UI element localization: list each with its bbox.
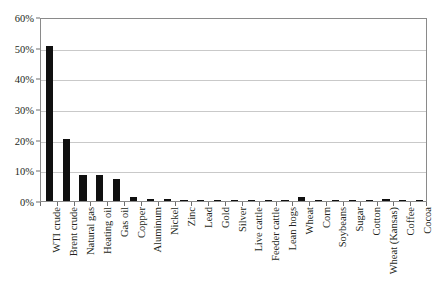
x-tick-label: Corn bbox=[318, 207, 329, 228]
x-tick-label: Lean hogs bbox=[284, 207, 295, 250]
x-tick-mark bbox=[175, 202, 176, 206]
y-tick-label: 60% bbox=[15, 13, 34, 24]
x-tick-label: Feeder cattle bbox=[267, 207, 278, 261]
x-tick-mark bbox=[124, 202, 125, 206]
bar bbox=[63, 139, 70, 201]
x-tick-mark bbox=[242, 202, 243, 206]
bar bbox=[332, 200, 339, 201]
x-tick-label: Gold bbox=[217, 207, 228, 228]
x-tick-label: Brent crude bbox=[65, 207, 76, 256]
bar bbox=[46, 46, 53, 201]
x-tick-label: Nickel bbox=[166, 207, 177, 235]
y-tick-label: 0% bbox=[20, 197, 34, 208]
x-tick-mark bbox=[107, 202, 108, 206]
x-tick-label-text: Soybeans bbox=[338, 207, 349, 247]
x-tick-label-text: Cotton bbox=[372, 207, 383, 236]
x-tick-label-text: Silver bbox=[237, 207, 248, 232]
bar bbox=[248, 200, 255, 201]
y-tick-label: 10% bbox=[15, 166, 34, 177]
bar bbox=[197, 200, 204, 201]
x-tick-label-text: Brent crude bbox=[69, 207, 80, 256]
x-tick-label-text: Zinc bbox=[187, 207, 198, 226]
bar bbox=[130, 197, 137, 201]
x-tick-label-text: Lead bbox=[203, 207, 214, 228]
bar bbox=[416, 200, 423, 201]
x-tick-label: Sugar bbox=[351, 207, 362, 232]
bar bbox=[382, 199, 389, 201]
x-tick-label: Gas oil bbox=[116, 207, 127, 237]
x-tick-mark bbox=[208, 202, 209, 206]
x-tick-label-text: Copper bbox=[136, 207, 147, 238]
x-tick-label: Wheat bbox=[301, 207, 312, 234]
bar bbox=[180, 200, 187, 201]
plot-area bbox=[40, 18, 427, 202]
x-tick-label-text: Lean hogs bbox=[288, 207, 299, 250]
x-tick-label-text: Wheat bbox=[304, 207, 315, 234]
bar bbox=[265, 200, 272, 201]
x-tick-label: Live cattle bbox=[250, 207, 261, 252]
x-tick-mark bbox=[191, 202, 192, 206]
y-tick-label: 40% bbox=[15, 74, 34, 85]
x-tick-label: Silver bbox=[234, 207, 245, 232]
x-tick-label-text: Live cattle bbox=[254, 207, 265, 252]
bar bbox=[96, 175, 103, 201]
x-tick-mark bbox=[141, 202, 142, 206]
x-tick-label-text: Coffee bbox=[405, 207, 416, 235]
bar bbox=[281, 200, 288, 201]
x-tick-label-text: Cocoa bbox=[422, 207, 433, 234]
x-tick-mark bbox=[74, 202, 75, 206]
x-tick-mark bbox=[90, 202, 91, 206]
x-tick-mark bbox=[393, 202, 394, 206]
bar bbox=[113, 179, 120, 201]
x-tick-label: Wheat (Kansas) bbox=[385, 207, 396, 274]
x-tick-label: Coffee bbox=[402, 207, 413, 235]
x-tick-label-text: Wheat (Kansas) bbox=[389, 207, 400, 274]
x-tick-mark bbox=[343, 202, 344, 206]
x-tick-mark bbox=[225, 202, 226, 206]
x-tick-mark bbox=[410, 202, 411, 206]
bar bbox=[79, 175, 86, 201]
x-tick-label-text: WTI crude bbox=[52, 207, 63, 253]
x-tick-mark bbox=[426, 202, 427, 206]
y-tick-label: 30% bbox=[15, 105, 34, 116]
bar-series bbox=[41, 19, 426, 201]
bar bbox=[349, 200, 356, 201]
x-tick-label: Soybeans bbox=[334, 207, 345, 247]
x-tick-mark bbox=[326, 202, 327, 206]
x-tick-mark bbox=[259, 202, 260, 206]
bar-chart: 0%10%20%30%40%50%60% WTI crudeBrent crud… bbox=[0, 0, 444, 307]
bar bbox=[164, 199, 171, 201]
x-tick-mark bbox=[40, 202, 41, 206]
x-tick-label-text: Sugar bbox=[355, 207, 366, 232]
x-tick-label: Copper bbox=[133, 207, 144, 238]
x-tick-label-text: Nickel bbox=[170, 207, 181, 235]
x-tick-label-text: Feeder cattle bbox=[271, 207, 282, 261]
x-tick-label: WTI crude bbox=[48, 207, 59, 253]
y-tick-label: 20% bbox=[15, 135, 34, 146]
x-tick-label: Cocoa bbox=[419, 207, 430, 234]
bar bbox=[399, 200, 406, 201]
x-tick-label-text: Gas oil bbox=[119, 207, 130, 237]
bar bbox=[231, 200, 238, 201]
y-axis: 0%10%20%30%40%50%60% bbox=[0, 18, 40, 202]
x-tick-mark bbox=[57, 202, 58, 206]
y-tick-label: 50% bbox=[15, 43, 34, 54]
x-tick-label-text: Heating oil bbox=[102, 207, 113, 254]
x-tick-label-text: Aluminum bbox=[153, 207, 164, 253]
x-tick-label: Heating oil bbox=[99, 207, 110, 254]
x-tick-label: Natural gas bbox=[82, 207, 93, 255]
x-tick-label: Lead bbox=[200, 207, 211, 228]
bar bbox=[147, 199, 154, 201]
x-tick-label: Aluminum bbox=[149, 207, 160, 253]
x-axis-labels: WTI crudeBrent crudeNatural gasHeating o… bbox=[40, 207, 427, 303]
x-tick-label-text: Natural gas bbox=[86, 207, 97, 255]
x-tick-mark bbox=[309, 202, 310, 206]
bar bbox=[366, 200, 373, 201]
x-tick-label: Zinc bbox=[183, 207, 194, 226]
bar bbox=[298, 197, 305, 201]
bar bbox=[315, 200, 322, 201]
x-tick-mark bbox=[158, 202, 159, 206]
x-tick-label-text: Gold bbox=[220, 207, 231, 228]
x-tick-mark bbox=[360, 202, 361, 206]
x-tick-mark bbox=[292, 202, 293, 206]
